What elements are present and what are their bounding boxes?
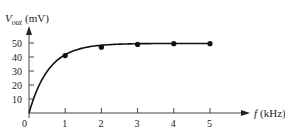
chart: 12345 1020304050 0 Vout(mV) f(kHz): [0, 0, 285, 137]
data-point: [171, 41, 176, 46]
y-tick-label: 20: [12, 80, 22, 91]
data-point: [99, 45, 104, 50]
y-axis-label: Vout(mV): [5, 12, 49, 27]
x-tick-label: 1: [62, 118, 67, 129]
data-curve: [29, 43, 210, 113]
x-axis-arrow-icon: [241, 110, 250, 116]
x-tick-label: 2: [98, 118, 103, 129]
x-tick-label: 4: [171, 118, 176, 129]
data-point: [207, 41, 212, 46]
y-tick-label: 50: [12, 38, 22, 49]
x-tick-label: 3: [135, 118, 140, 129]
y-axis-arrow-icon: [26, 26, 32, 35]
y-ticks: 1020304050: [12, 38, 34, 105]
origin-label: 0: [22, 118, 27, 129]
x-ticks: 12345: [62, 108, 212, 129]
data-point: [63, 53, 68, 58]
x-axis-label: f(kHz): [254, 107, 285, 120]
y-tick-label: 40: [12, 52, 22, 63]
y-tick-label: 30: [12, 66, 22, 77]
data-point: [135, 42, 140, 47]
x-tick-label: 5: [207, 118, 212, 129]
y-tick-label: 10: [12, 94, 22, 105]
